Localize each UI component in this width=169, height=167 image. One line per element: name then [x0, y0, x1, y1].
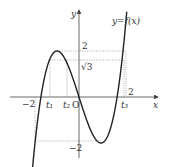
- x-axis-label: x: [153, 100, 158, 110]
- y-axis-label: y: [70, 9, 77, 19]
- graph-canvas: y x O y=f(x) 2 √3 −2 −2 t₁ t₂ t₃ 2: [0, 0, 169, 167]
- x-tick-t3: t₃: [121, 100, 129, 110]
- right-label-2: 2: [128, 87, 134, 97]
- x-tick-t2: t₂: [63, 100, 71, 110]
- function-label: y=f(x): [111, 16, 141, 26]
- x-tick-minus2: −2: [22, 99, 35, 109]
- cubic-graph-diagram: y x O y=f(x) 2 √3 −2 −2 t₁ t₂ t₃ 2: [0, 0, 169, 167]
- y-tick-2: 2: [82, 41, 88, 51]
- y-tick-sqrt3: √3: [81, 62, 93, 72]
- origin-label: O: [72, 100, 79, 110]
- x-tick-t1: t₁: [46, 100, 53, 110]
- y-tick-minus2: −2: [69, 143, 82, 153]
